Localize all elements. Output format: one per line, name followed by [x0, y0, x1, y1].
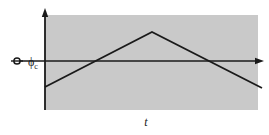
threshold-arrowhead-icon	[255, 58, 264, 64]
phi-axis-marker-icon	[11, 58, 23, 64]
threshold-label-subscript: c	[34, 62, 38, 71]
y-axis-arrowhead-icon	[42, 8, 48, 17]
plot-area-background	[45, 15, 258, 110]
x-axis-label: t	[144, 115, 148, 129]
threshold-label: ϕc	[28, 55, 38, 71]
phase-time-plot: ϕc t	[0, 0, 269, 135]
figure-container: ϕc t	[0, 0, 269, 135]
